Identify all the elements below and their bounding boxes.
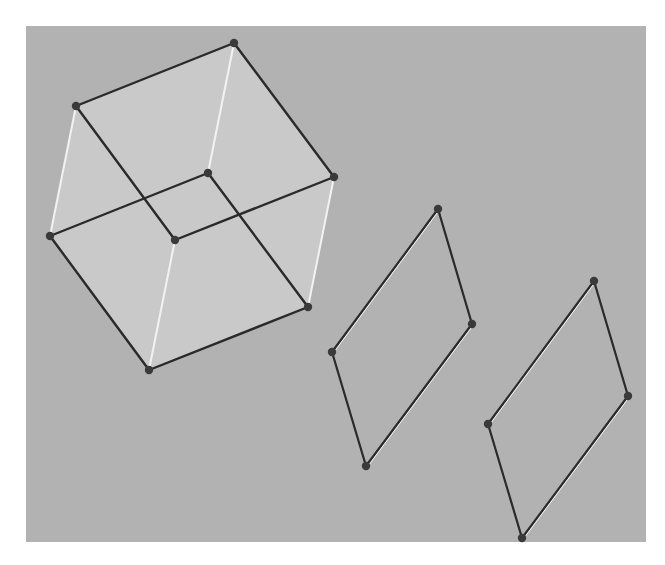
cube-vertex-d bbox=[171, 236, 179, 244]
parallelogram-vertex-bottom bbox=[518, 534, 526, 542]
cube-vertex-f bbox=[204, 169, 212, 177]
cube-vertex-h bbox=[145, 366, 153, 374]
cube-vertex-a bbox=[72, 102, 80, 110]
cube-vertex-g bbox=[304, 303, 312, 311]
parallelogram-vertex-left bbox=[484, 420, 492, 428]
drawing-canvas bbox=[0, 0, 665, 565]
cube-vertex-e bbox=[46, 232, 54, 240]
cube-vertex-c bbox=[330, 173, 338, 181]
parallelogram-vertex-bottom bbox=[362, 462, 370, 470]
parallelogram-vertex-right bbox=[468, 320, 476, 328]
parallelogram-vertex-right bbox=[624, 392, 632, 400]
parallelogram-vertex-top bbox=[590, 277, 598, 285]
cube-vertex-b bbox=[230, 39, 238, 47]
parallelogram-vertex-left bbox=[328, 348, 336, 356]
parallelogram-vertex-top bbox=[434, 205, 442, 213]
